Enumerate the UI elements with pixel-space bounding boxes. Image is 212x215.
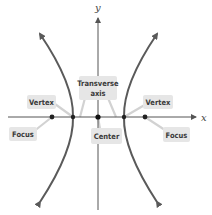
svg-text:Focus: Focus [12,130,34,139]
label-transverse-axis: Transverse axis [77,76,119,100]
label-focus-right: Focus [163,127,190,142]
right-branch [124,34,157,202]
svg-text:axis: axis [90,89,105,98]
center-point [95,114,100,119]
y-axis-label: y [94,2,101,13]
svg-text:Vertex: Vertex [146,98,172,107]
x-axis-label: x [201,112,207,123]
label-vertex-right: Vertex [143,95,173,109]
hyperbola-diagram: x y Vertex Focus Transverse axis Center … [0,0,212,215]
svg-text:Focus: Focus [166,131,188,140]
label-center: Center [91,128,122,144]
focus-left-point [50,115,55,120]
vertex-left-point [71,115,75,119]
label-focus-left: Focus [9,127,37,141]
svg-text:Transverse: Transverse [77,79,119,88]
focus-right-point [143,115,148,120]
svg-text:Center: Center [94,132,120,141]
svg-text:Vertex: Vertex [29,98,55,107]
label-vertex-left: Vertex [27,95,56,109]
vertex-right-point [122,115,126,119]
left-branch [40,34,73,202]
